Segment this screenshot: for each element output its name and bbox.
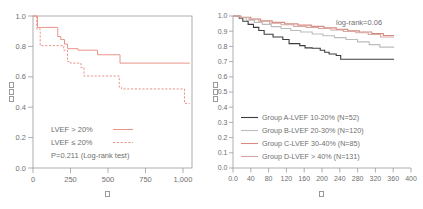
left-legend-label-1: LVEF > 20% <box>51 125 93 134</box>
left-x-ticklabel: 0 <box>31 175 35 184</box>
right-y-ticklabel: 0.7 <box>218 58 228 65</box>
left-x-ticklabel: 750 <box>139 175 152 184</box>
tofu-box-icon <box>105 191 110 197</box>
right-x-axis <box>233 168 411 173</box>
right-legend: Group A-LVEF 10-20% (N=52) Group B-LVEF … <box>241 113 364 161</box>
right-x-axis-title <box>319 191 324 197</box>
right-y-ticklabel: 0.1 <box>218 149 228 156</box>
tofu-box-icon <box>9 96 14 102</box>
right-x-ticklabel: 40 <box>247 175 255 182</box>
tofu-box-icon <box>213 82 218 88</box>
right-x-ticklabel: 160 <box>298 175 310 182</box>
survival-curve-1 <box>33 16 190 63</box>
survival-curves-figure: 0.0 0.2 0.4 0.6 0.8 1.0 0 250 500 750 1 <box>0 0 423 209</box>
right-x-ticklabel: 0.0 <box>228 175 238 182</box>
left-pvalue-annotation: P=0.211 (Log-rank test) <box>51 151 130 160</box>
tofu-box-icon <box>213 96 218 102</box>
right-x-ticklabel: 200 <box>316 175 328 182</box>
tofu-box-icon <box>319 191 324 197</box>
left-legend-label-2: LVEF ≤ 20% <box>51 138 93 147</box>
left-x-axis <box>33 168 183 173</box>
right-legend-label-c: Group C-LVEF 30-40% (N=85) <box>262 139 360 148</box>
right-y-axis-title <box>213 82 218 102</box>
right-legend-label-d: Group D-LVEF > 40% (N=131) <box>262 152 360 161</box>
left-survival-chart: 0.0 0.2 0.4 0.6 0.8 1.0 0 250 500 750 1 <box>0 0 211 209</box>
right-survival-chart: 0.00.10.20.30.40.50.60.70.80.91.0 0.0408… <box>211 0 423 209</box>
tofu-box-icon <box>9 89 14 95</box>
left-legend: LVEF > 20% LVEF ≤ 20% P=0.211 (Log-rank … <box>51 125 133 160</box>
left-y-ticklabel: 0.2 <box>16 133 26 142</box>
survival-curve-2 <box>33 16 190 103</box>
right-y-ticklabel: 0.8 <box>218 43 228 50</box>
left-x-ticklabels: 0 250 500 750 1,000 <box>31 175 192 184</box>
left-y-ticklabel: 0.8 <box>16 42 26 51</box>
right-y-ticklabels: 0.00.10.20.30.40.50.60.70.80.91.0 <box>218 12 228 171</box>
right-logrank-annotation: log-rank=0.06 <box>336 18 382 27</box>
left-y-ticklabel: 1.0 <box>16 12 26 21</box>
right-x-ticklabel: 240 <box>334 175 346 182</box>
left-chart-canvas: 0.0 0.2 0.4 0.6 0.8 1.0 0 250 500 750 1 <box>0 0 211 209</box>
right-y-ticklabel: 0.5 <box>218 88 228 95</box>
right-legend-label-a: Group A-LVEF 10-20% (N=52) <box>262 113 359 122</box>
right-x-ticklabel: 320 <box>370 175 382 182</box>
right-x-ticklabel: 80 <box>265 175 273 182</box>
left-y-ticklabel: 0.6 <box>16 72 26 81</box>
left-y-ticklabel: 0.0 <box>16 164 26 173</box>
left-y-axis-title <box>9 82 14 102</box>
right-y-ticklabel: 0.3 <box>218 119 228 126</box>
tofu-box-icon <box>213 89 218 95</box>
right-y-ticklabel: 0.4 <box>218 104 228 111</box>
right-y-ticklabel: 0.0 <box>218 164 228 171</box>
right-y-axis <box>229 16 233 168</box>
tofu-box-icon <box>9 82 14 88</box>
left-x-axis-title <box>105 191 110 197</box>
right-y-ticklabel: 1.0 <box>218 12 228 19</box>
left-x-ticklabel: 500 <box>102 175 115 184</box>
right-x-ticklabel: 120 <box>281 175 293 182</box>
right-legend-label-b: Group B-LVEF 20-30% (N=120) <box>262 126 364 135</box>
left-y-ticklabels: 0.0 0.2 0.4 0.6 0.8 1.0 <box>16 12 26 173</box>
right-x-ticklabel: 280 <box>352 175 364 182</box>
right-x-ticklabel: 360 <box>387 175 399 182</box>
right-y-ticklabel: 0.9 <box>218 28 228 35</box>
right-y-ticklabel: 0.2 <box>218 134 228 141</box>
left-y-axis <box>28 16 33 168</box>
right-x-ticklabel: 400 <box>405 175 417 182</box>
left-x-ticklabel: 250 <box>64 175 77 184</box>
left-x-ticklabel: 1,000 <box>174 175 193 184</box>
left-y-ticklabel: 0.4 <box>16 103 26 112</box>
right-x-ticklabels: 0.04080120160200240280320360400 <box>228 175 417 182</box>
right-chart-canvas: 0.00.10.20.30.40.50.60.70.80.91.0 0.0408… <box>211 0 423 209</box>
right-y-ticklabel: 0.6 <box>218 73 228 80</box>
left-curve-group <box>33 16 190 103</box>
